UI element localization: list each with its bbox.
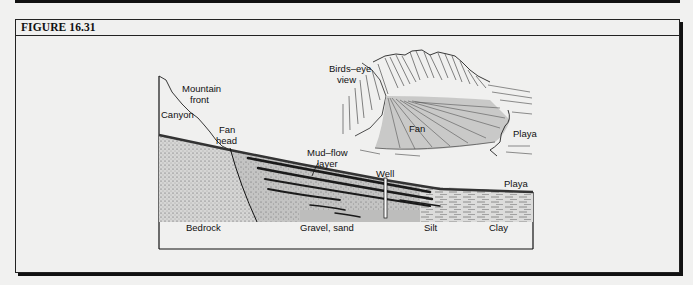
- label-playa-birdseye: Playa: [513, 128, 537, 139]
- gravel-base-shade: [300, 210, 430, 222]
- label-mudflow: Mud–flow: [307, 147, 348, 158]
- label-playa: Playa: [504, 178, 528, 189]
- label-mountain: Mountain: [182, 83, 221, 94]
- label-well: Well: [376, 168, 394, 179]
- alluvial-fan-diagram: Mountain front Canyon Fan head Mud–flow …: [0, 0, 693, 285]
- label-silt: Silt: [424, 222, 438, 233]
- label-canyon: Canyon: [161, 109, 194, 120]
- label-fan-birdseye: Fan: [409, 123, 425, 134]
- label-front: front: [190, 94, 209, 105]
- label-birds-eye: Birds–eye: [329, 63, 371, 74]
- label-bedrock: Bedrock: [186, 222, 221, 233]
- well-shaft: [384, 178, 387, 218]
- label-head: head: [216, 135, 237, 146]
- label-view: view: [337, 74, 356, 85]
- label-gravel-sand: Gravel, sand: [300, 222, 354, 233]
- label-fan: Fan: [219, 124, 235, 135]
- label-layer: layer: [317, 158, 338, 169]
- label-clay: Clay: [489, 222, 508, 233]
- birds-eye-view: Birds–eye view Fan Playa: [329, 50, 537, 156]
